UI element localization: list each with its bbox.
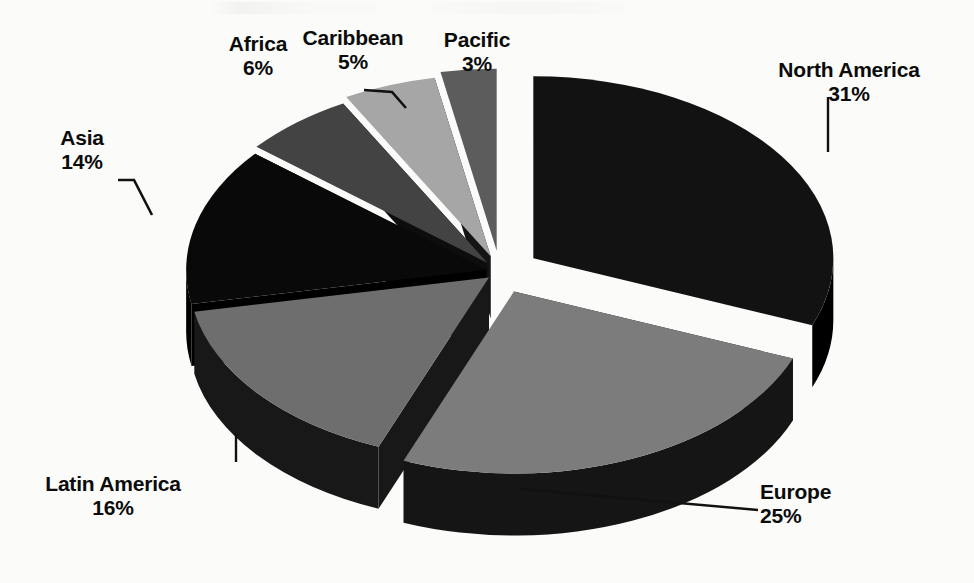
pie-slice-top-north-america (533, 76, 833, 325)
pie-slices-group (186, 69, 833, 536)
slice-name-pacific: Pacific (426, 28, 528, 52)
slice-label-latin-america: Latin America 16% (8, 472, 218, 519)
slice-label-north-america: North America 31% (744, 58, 954, 105)
slice-value-asia: 14% (22, 150, 142, 174)
slice-value-pacific: 3% (426, 52, 528, 76)
slice-label-caribbean: Caribbean 5% (284, 26, 422, 73)
slice-name-europe: Europe (760, 480, 900, 504)
slice-name-asia: Asia (22, 126, 142, 150)
slice-value-latin-america: 16% (8, 496, 218, 520)
slice-name-latin-america: Latin America (8, 472, 218, 496)
slice-name-north-america: North America (744, 58, 954, 82)
slice-value-caribbean: 5% (284, 50, 422, 74)
slice-value-north-america: 31% (744, 82, 954, 106)
slice-name-caribbean: Caribbean (284, 26, 422, 50)
pie-chart-figure: North America 31% Europe 25% Latin Ameri… (0, 0, 974, 583)
slice-label-europe: Europe 25% (760, 480, 900, 527)
slice-label-pacific: Pacific 3% (426, 28, 528, 75)
slice-value-europe: 25% (760, 504, 900, 528)
leader-line-asia (118, 180, 152, 215)
slice-label-asia: Asia 14% (22, 126, 142, 173)
